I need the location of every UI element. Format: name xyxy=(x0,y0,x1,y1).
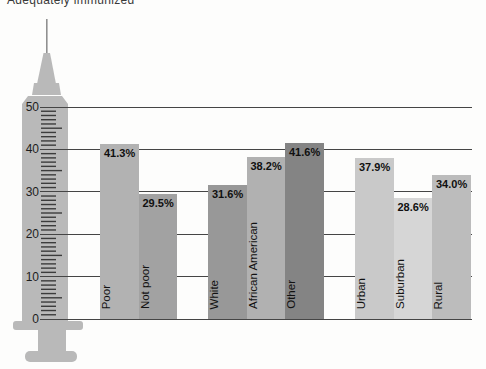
grid-line xyxy=(40,107,472,108)
bar-category-label: Poor xyxy=(100,285,139,309)
y-axis-tick-label: 20 xyxy=(15,227,39,241)
bar-value-label: 38.2% xyxy=(251,160,282,172)
y-axis-tick-label: 50 xyxy=(15,100,39,114)
syringe-needle-hub xyxy=(37,53,56,84)
y-axis-tick-label: 40 xyxy=(15,142,39,156)
bar-value-label: 29.5% xyxy=(143,197,174,209)
bar-urban: 37.9%Urban xyxy=(355,158,394,319)
syringe-thumb-rest xyxy=(25,351,77,362)
bar-category-label: Urban xyxy=(355,278,394,309)
bar-poor: 41.3%Poor xyxy=(100,144,139,319)
bar-value-label: 37.9% xyxy=(359,161,390,173)
immunization-bar-chart: Adequately immunized 0102030405041.3%Poo… xyxy=(0,0,486,369)
bar-suburban: 28.6%Suburban xyxy=(394,198,433,319)
y-axis-tick-label: 30 xyxy=(15,185,39,199)
bar-category-label: Other xyxy=(285,280,324,309)
bar-african-american: 38.2%African American xyxy=(247,157,286,319)
bar-other: 41.6%Other xyxy=(285,143,324,319)
bar-value-label: 31.6% xyxy=(212,188,243,200)
bar-value-label: 41.3% xyxy=(104,147,135,159)
bar-value-label: 28.6% xyxy=(398,201,429,213)
y-axis-tick-label: 0 xyxy=(15,312,39,326)
bar-value-label: 41.6% xyxy=(289,146,320,158)
bar-value-label: 34.0% xyxy=(436,178,467,190)
syringe-plunger-rod xyxy=(38,330,66,353)
syringe-collar xyxy=(32,83,61,95)
bar-rural: 34.0%Rural xyxy=(432,175,471,319)
bar-not-poor: 29.5%Not poor xyxy=(139,194,178,319)
bar-category-label: White xyxy=(208,280,247,309)
bar-category-label: Suburban xyxy=(394,259,433,309)
bar-category-label: Not poor xyxy=(139,265,178,309)
bar-category-label: Rural xyxy=(432,282,471,309)
bar-category-label: African American xyxy=(247,222,286,309)
y-axis-tick-label: 10 xyxy=(15,270,39,284)
bar-white: 31.6%White xyxy=(208,185,247,319)
